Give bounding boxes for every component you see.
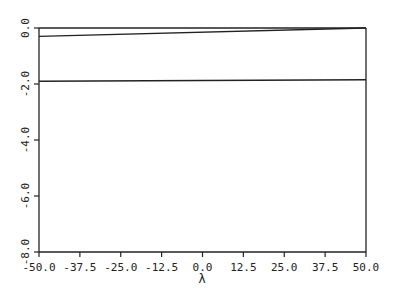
series-line-2 [39, 28, 366, 36]
x-tick-label: 12.5 [230, 261, 257, 274]
y-axis-ticks: 0.0-2.0-4.0-6.0-8.0 [19, 18, 39, 265]
x-tick-label: 50.0 [353, 261, 380, 274]
y-tick-label: -6.0 [19, 183, 32, 210]
series-layer [39, 28, 366, 81]
x-tick-label: -37.5 [63, 261, 96, 274]
y-tick-label: -8.0 [19, 239, 32, 266]
y-tick-label: -4.0 [19, 127, 32, 154]
y-tick-label: -2.0 [19, 71, 32, 98]
x-axis-ticks: -50.0-37.5-25.0-12.50.012.525.037.550.0 [22, 252, 379, 274]
x-tick-label: 25.0 [271, 261, 298, 274]
x-tick-label: -12.5 [145, 261, 178, 274]
x-tick-label: -25.0 [104, 261, 137, 274]
x-tick-label: 37.5 [312, 261, 339, 274]
series-line-3 [39, 80, 366, 81]
x-axis-label: λ [198, 272, 205, 286]
plot-frame [39, 28, 366, 252]
line-chart: -50.0-37.5-25.0-12.50.012.525.037.550.0 … [0, 0, 400, 301]
y-tick-label: 0.0 [19, 18, 32, 38]
